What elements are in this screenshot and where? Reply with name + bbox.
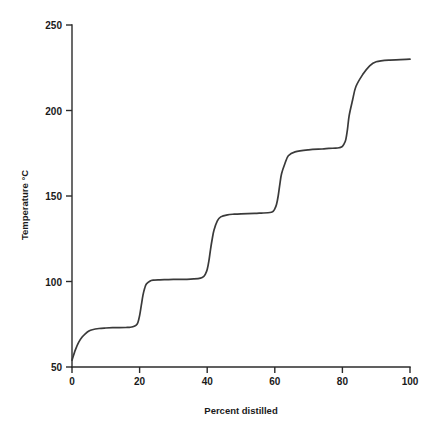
x-tick-label-40: 40 [202,376,214,387]
x-tick-label-100: 100 [402,376,419,387]
distillation-curve-line [72,59,410,360]
chart-page: 250 200 150 100 50 0 20 40 60 80 100 Per… [0,0,436,434]
x-axis-ticks [72,367,410,373]
x-tick-label-60: 60 [269,376,281,387]
distillation-curve-chart: 250 200 150 100 50 0 20 40 60 80 100 Per… [0,0,436,434]
y-axis-tick-labels: 250 200 150 100 50 [45,20,62,373]
x-axis-title: Percent distilled [204,405,278,416]
x-axis-tick-labels: 0 20 40 60 80 100 [69,376,419,387]
y-tick-label-250: 250 [45,20,62,31]
y-tick-label-150: 150 [45,191,62,202]
y-tick-label-200: 200 [45,106,62,117]
y-axis-title: Temperature °C [19,170,30,240]
x-tick-label-80: 80 [337,376,349,387]
y-tick-label-100: 100 [45,277,62,288]
y-tick-label-50: 50 [51,362,63,373]
x-tick-label-0: 0 [69,376,75,387]
x-tick-label-20: 20 [134,376,146,387]
y-axis-ticks [66,25,72,367]
